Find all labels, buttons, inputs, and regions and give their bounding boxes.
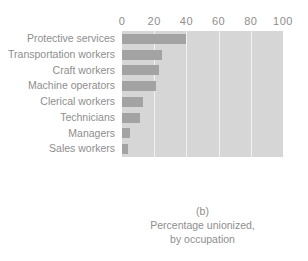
x-tick-label: 80 [244,14,257,28]
y-category-label: Managers [68,126,115,142]
caption-line-2: by occupation [122,232,283,246]
y-category-label: Protective services [27,31,115,47]
bar [122,81,156,91]
bar [122,144,128,154]
caption-line-1: Percentage unionized, [122,218,283,232]
bar [122,97,143,107]
y-category-label: Craft workers [53,63,115,79]
bar [122,50,162,60]
y-axis-category-labels: Protective servicesTransportation worker… [0,31,119,157]
x-tick-label: 60 [212,14,225,28]
plot-area [122,31,283,157]
gridline [251,31,252,157]
gridline [219,31,220,157]
y-category-label: Transportation workers [8,47,115,63]
bar [122,128,130,138]
figure-bar-chart: 020406080100 Protective servicesTranspor… [0,0,308,261]
bar [122,113,140,123]
x-tick-label: 100 [273,14,293,28]
y-category-label: Technicians [60,110,115,126]
y-category-label: Sales workers [49,141,115,157]
caption-letter: (b) [122,204,283,218]
bar [122,34,186,44]
gridline [186,31,187,157]
x-tick-label: 0 [119,14,126,28]
x-tick-label: 40 [180,14,193,28]
figure-caption: (b) Percentage unionized, by occupation [122,204,283,246]
bar [122,65,159,75]
y-category-label: Machine operators [28,78,115,94]
x-tick-label: 20 [148,14,161,28]
x-axis-tick-labels: 020406080100 [122,14,283,28]
y-category-label: Clerical workers [40,94,115,110]
